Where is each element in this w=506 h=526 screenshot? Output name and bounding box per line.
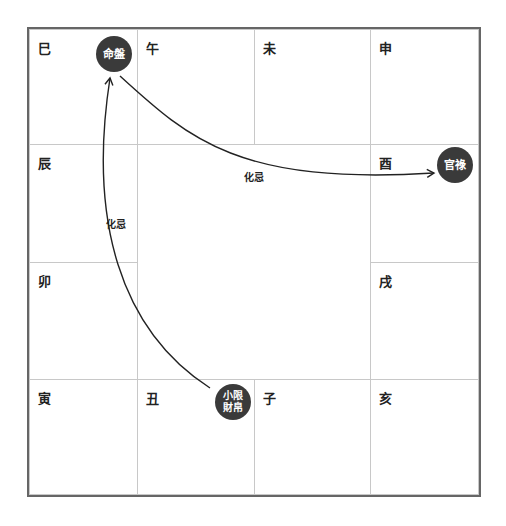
cell-wei: 未 <box>254 29 371 145</box>
hua-ji-label-top: 化忌 <box>244 169 264 184</box>
badge-line-2: 財帛 <box>223 402 243 414</box>
branch-label: 寅 <box>38 388 51 407</box>
badge-guan-lu: 官祿 <box>437 147 473 183</box>
hua-ji-label-left: 化忌 <box>106 216 126 231</box>
branch-label: 酉 <box>379 153 392 172</box>
branch-label: 亥 <box>379 388 392 407</box>
cell-chen: 辰 <box>29 144 138 263</box>
branch-label: 戌 <box>379 271 392 290</box>
cell-yin: 寅 <box>29 379 138 495</box>
branch-label: 未 <box>263 38 276 57</box>
badge-xiao-xian-cai-bo: 小限 財帛 <box>215 384 251 420</box>
badge-ming-pan: 命盤 <box>96 36 132 72</box>
branch-label: 丑 <box>146 388 159 407</box>
branch-label: 子 <box>263 388 276 407</box>
cell-shen: 申 <box>370 29 479 145</box>
cell-wu: 午 <box>137 29 255 145</box>
branch-label: 卯 <box>38 271 51 290</box>
cell-hai: 亥 <box>370 379 479 495</box>
branch-label: 午 <box>146 38 159 57</box>
cell-mao: 卯 <box>29 262 138 380</box>
branch-label: 辰 <box>38 153 51 172</box>
branch-label: 巳 <box>38 38 51 57</box>
cell-zi: 子 <box>254 379 371 495</box>
badge-line-1: 小限 <box>223 390 243 402</box>
branch-label: 申 <box>379 38 392 57</box>
cell-xu: 戌 <box>370 262 479 380</box>
